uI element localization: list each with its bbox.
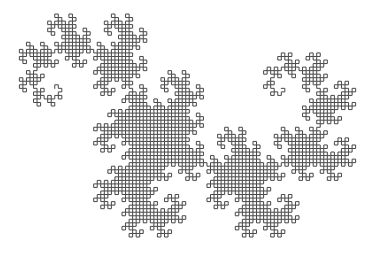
dragon-curve-svg	[0, 0, 371, 253]
fractal-canvas	[0, 0, 371, 253]
fractal-figure-root	[0, 0, 371, 253]
